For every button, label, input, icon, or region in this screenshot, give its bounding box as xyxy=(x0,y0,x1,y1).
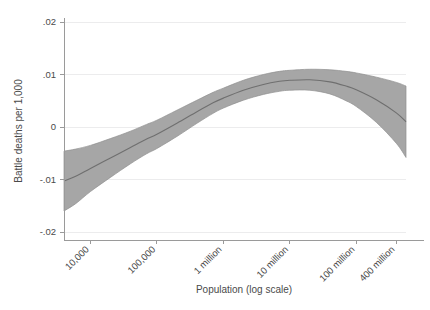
confidence-band-group xyxy=(64,69,406,211)
x-tick-label: 10,000 xyxy=(63,244,91,272)
y-tick-label: -.01 xyxy=(40,174,56,185)
y-tick-label: -.02 xyxy=(40,226,56,237)
y-tick-label: .02 xyxy=(43,16,56,27)
y-axis-title: Battle deaths per 1,000 xyxy=(13,79,24,183)
y-tick-label: .01 xyxy=(43,69,56,80)
x-axis-title: Population (log scale) xyxy=(196,284,292,295)
chart-plot-area: .02.010-.01-.02 10,000100,0001 million10… xyxy=(0,0,430,310)
confidence-interval-band xyxy=(64,69,406,211)
x-tick-label: 400 million xyxy=(357,244,397,284)
x-tick-label: 1 million xyxy=(191,244,223,276)
x-tick-label: 100,000 xyxy=(125,244,157,276)
chart-figure: .02.010-.01-.02 10,000100,0001 million10… xyxy=(0,0,430,310)
x-tick-label: 100 million xyxy=(317,244,357,284)
gridlines xyxy=(64,22,406,232)
x-axis-tick-labels: 10,000100,0001 million10 million100 mill… xyxy=(63,244,397,284)
axes xyxy=(60,18,424,244)
x-axis-ticks xyxy=(90,240,396,244)
x-tick-label: 10 million xyxy=(254,244,290,280)
y-axis-tick-labels: .02.010-.01-.02 xyxy=(40,16,56,237)
y-tick-label: 0 xyxy=(51,121,56,132)
y-axis-ticks xyxy=(60,22,64,232)
